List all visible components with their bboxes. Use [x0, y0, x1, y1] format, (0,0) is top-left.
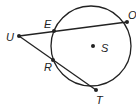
secant-uo — [19, 22, 127, 36]
point-t — [94, 88, 98, 92]
geometry-diagram: U E O S R T — [0, 0, 136, 108]
point-s-center — [91, 44, 95, 48]
point-e — [52, 29, 56, 33]
secant-ut — [19, 36, 96, 90]
diagram-svg: U E O S R T — [0, 0, 136, 108]
label-r: R — [44, 61, 52, 73]
label-t: T — [96, 94, 104, 106]
label-o: O — [128, 9, 136, 21]
label-u: U — [6, 31, 14, 43]
point-u — [17, 34, 21, 38]
label-s: S — [101, 42, 109, 54]
label-e: E — [44, 18, 52, 30]
